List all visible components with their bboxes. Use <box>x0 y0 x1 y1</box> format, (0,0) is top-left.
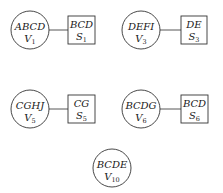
pair-v5-s5: CGHJ V5 CG S5 <box>11 90 95 128</box>
clique-v10-letters: BCDE <box>96 159 128 170</box>
clique-v1-letters: ABCD <box>14 21 45 32</box>
pair-v1-s1: ABCD V1 BCD S1 <box>11 11 95 49</box>
diagram-canvas: ABCD V1 BCD S1 DEFI V3 DE S3 CGHJ V5 CG … <box>0 0 223 193</box>
separator-s5-letters: CG <box>74 98 90 109</box>
separator-s6-letters: BCD <box>182 98 206 109</box>
pair-v3-s3: DEFI V3 DE S3 <box>122 11 207 49</box>
separator-s1-letters: BCD <box>69 19 93 30</box>
clique-v5-letters: CGHJ <box>16 100 45 111</box>
clique-v3-letters: DEFI <box>127 21 155 32</box>
clique-v6-letters: BCDG <box>124 100 156 111</box>
pair-v6-s6: BCDG V6 BCD S6 <box>122 90 208 128</box>
separator-s3-letters: DE <box>185 19 202 30</box>
standalone-v10: BCDE V10 <box>93 149 131 187</box>
